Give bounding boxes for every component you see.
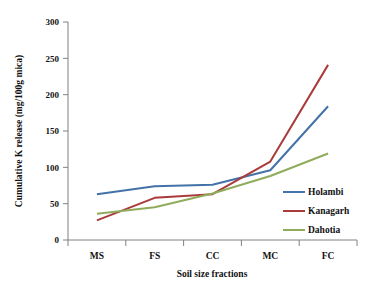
series-line-holambi: [97, 106, 328, 194]
y-axis: 050100150200250300 Cumulative K release …: [14, 17, 68, 245]
y-tick-label: 100: [46, 163, 60, 173]
line-chart: 050100150200250300 Cumulative K release …: [0, 0, 370, 292]
legend-label-holambi: Holambi: [308, 187, 344, 197]
x-axis: MSFSCCMCFC Soil size fractions: [68, 240, 357, 279]
y-axis-title: Cumulative K release (mg/100g mica): [14, 55, 25, 207]
x-category-label-mc: MC: [262, 251, 278, 261]
x-axis-category-labels: MSFSCCMCFC: [90, 251, 335, 261]
x-category-label-fc: FC: [322, 251, 335, 261]
y-tick-label: 50: [50, 199, 60, 209]
x-axis-ticks: [68, 240, 357, 246]
x-category-label-ms: MS: [90, 251, 104, 261]
chart-container: 050100150200250300 Cumulative K release …: [0, 0, 370, 292]
y-tick-label: 200: [46, 90, 60, 100]
y-tick-label: 300: [46, 17, 60, 27]
x-category-label-cc: CC: [206, 251, 220, 261]
data-series-group: [97, 65, 328, 221]
y-axis-ticks: [63, 22, 68, 240]
legend-label-kanagarh: Kanagarh: [308, 206, 350, 216]
y-tick-label: 150: [46, 126, 60, 136]
legend-label-dahotia: Dahotia: [308, 225, 340, 235]
chart-legend: HolambiKanagarhDahotia: [283, 187, 350, 235]
y-axis-tick-labels: 050100150200250300: [46, 17, 60, 245]
series-line-kanagarh: [97, 65, 328, 221]
x-category-label-fs: FS: [149, 251, 160, 261]
y-tick-label: 250: [46, 54, 60, 64]
x-axis-title: Soil size fractions: [177, 269, 248, 279]
y-tick-label: 0: [55, 235, 60, 245]
series-line-dahotia: [97, 154, 328, 214]
